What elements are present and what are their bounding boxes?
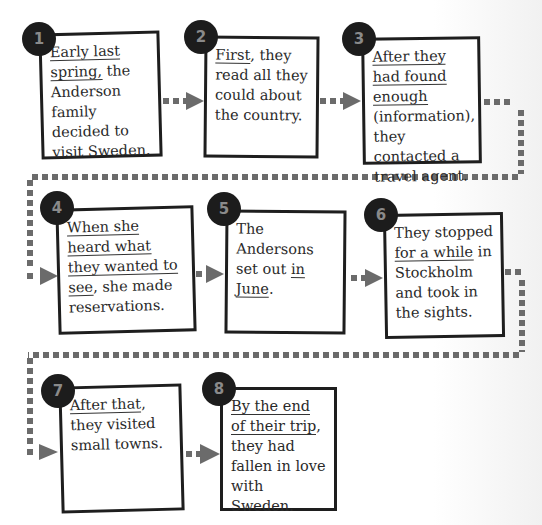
step-number-badge-2: 2: [184, 20, 218, 54]
step-text-6: They stopped for a while in Stockholm an…: [394, 221, 496, 323]
step-text-3: After they had found enough (information…: [372, 45, 473, 186]
step-text-7: After that, they visited small towns.: [70, 393, 175, 456]
step-box-6: They stopped for a while in Stockholm an…: [383, 212, 505, 339]
step-number-badge-7: 7: [41, 374, 75, 408]
step-number-badge-1: 1: [22, 22, 56, 56]
step-box-3: After they had found enough (information…: [361, 36, 482, 165]
arrow-4-to-5: [196, 265, 224, 283]
step-box-5: The Andersons set out in June.: [224, 209, 346, 334]
step-text-1: Early last spring, the Anderson family d…: [50, 40, 154, 163]
arrow-1-to-2: [163, 92, 204, 110]
step-text-5: The Andersons set out in June.: [236, 219, 338, 300]
step-number-badge-4: 4: [40, 191, 74, 225]
step-number-badge-6: 6: [364, 198, 398, 232]
arrow-2-to-3: [320, 92, 361, 110]
step-number-badge-3: 3: [342, 22, 376, 56]
step-box-7: After that, they visited small towns.: [58, 383, 184, 513]
step-number-badge-5: 5: [207, 192, 241, 226]
arrow-5-to-6: [351, 269, 383, 287]
sequence-diagram: Early last spring, the Anderson family d…: [0, 0, 542, 525]
step-text-8: By the end of their trip, they had falle…: [231, 396, 328, 516]
step-box-2: First, they read all they could about th…: [203, 36, 319, 159]
step-box-1: Early last spring, the Anderson family d…: [38, 30, 162, 159]
step-box-4: When she heard what they wanted to see, …: [55, 205, 196, 335]
step-number-badge-8: 8: [202, 372, 236, 406]
step-text-2: First, they read all they could about th…: [215, 45, 311, 126]
step-box-8: By the end of their trip, they had falle…: [220, 387, 337, 511]
step-text-4: When she heard what they wanted to see, …: [67, 214, 188, 317]
arrow-7-to-8: [186, 444, 220, 464]
